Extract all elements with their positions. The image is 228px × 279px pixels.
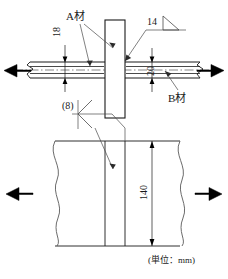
technical-drawing-canvas: A材 14 18 20 B材 (8) 140 (単位：mm): [0, 0, 228, 279]
load-arrow-left-plan: [6, 188, 33, 201]
dimension-140: [150, 141, 155, 246]
label-material-b: B材: [168, 93, 186, 104]
label-weld-size-14: 14: [147, 17, 157, 27]
label-dimension-20: 20: [146, 66, 156, 76]
vertical-plate-a: [105, 20, 125, 118]
dimension-18: [63, 45, 68, 92]
label-weld-size-8: (8): [62, 101, 74, 111]
load-arrow-left-elevation: [4, 65, 31, 78]
fillet-triangle-icon: [163, 16, 179, 30]
label-unit-note: (単位：mm): [148, 256, 195, 265]
label-dimension-140: 140: [139, 185, 149, 200]
label-dimension-18: 18: [52, 27, 62, 37]
break-line-right-plan: [178, 141, 185, 246]
fillet-cross-icon: [78, 100, 92, 114]
load-arrow-right-elevation: [197, 65, 224, 78]
label-material-a: A材: [66, 11, 85, 22]
engineering-drawing-svg: [0, 0, 228, 279]
elevation-view: [4, 16, 224, 118]
plan-view: [6, 100, 222, 246]
load-arrow-right-plan: [195, 188, 222, 201]
break-line-left-plan: [53, 141, 60, 246]
